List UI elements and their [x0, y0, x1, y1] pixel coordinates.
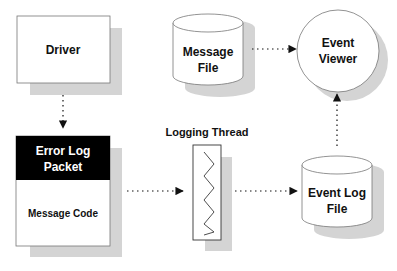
error-log-packet-header-line2: Packet [44, 160, 83, 174]
error-log-packet-node: Error Log Packet Message Code [16, 136, 122, 257]
driver-label: Driver [46, 43, 81, 57]
message-code-label: Message Code [28, 208, 98, 219]
event-viewer-node: Event Viewer [297, 10, 388, 101]
event-log-file-top [302, 156, 372, 174]
driver-node: Driver [17, 16, 122, 95]
event-viewer-circle [297, 10, 379, 92]
logging-thread-node: Logging Thread [165, 126, 248, 251]
error-log-packet-header-line1: Error Log [36, 144, 91, 158]
event-viewer-line1: Event [322, 36, 355, 50]
event-log-file-node: Event Log File [302, 156, 384, 239]
event-log-file-line2: File [327, 202, 348, 216]
logging-thread-label: Logging Thread [165, 126, 248, 138]
logging-architecture-diagram: Driver Error Log Packet Message Code Mes… [0, 0, 397, 271]
event-viewer-line2: Viewer [319, 52, 358, 66]
message-file-node: Message File [173, 14, 255, 97]
message-file-line2: File [198, 61, 219, 75]
message-file-top [173, 14, 243, 32]
message-file-line1: Message [183, 45, 234, 59]
event-log-file-line1: Event Log [308, 186, 366, 200]
logging-thread-box [193, 145, 221, 240]
